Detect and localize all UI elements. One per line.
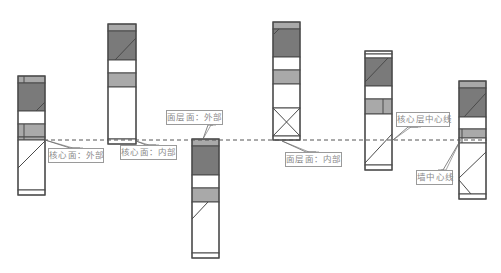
wall-layer-band-dark — [273, 29, 300, 57]
wall-layer-band-white — [192, 202, 219, 253]
wall-layer-band-white — [18, 140, 45, 190]
label-core-centerline: 核心层中心线 — [396, 112, 450, 127]
wall-layer-band-dark — [192, 146, 219, 175]
wall-layer-band-light — [108, 73, 136, 87]
leader-tail-finish-face-interior — [282, 141, 319, 152]
wall-layer-band-white — [459, 194, 486, 199]
leader-wall-centerline — [438, 141, 460, 170]
leader-finish-face-interior — [282, 141, 316, 152]
leader-tail-finish-face-exterior — [203, 125, 216, 139]
wall-layer-band-white — [18, 111, 45, 124]
wall-layer-band-light — [273, 70, 300, 84]
wall-layer-band-white — [365, 54, 392, 58]
wall-layer-band-white — [108, 60, 136, 73]
wall-layer-band-dark — [459, 88, 486, 117]
wall-layer-band-light — [459, 129, 486, 138]
wall-layer-band-white — [365, 86, 392, 99]
wall-layer-band-white — [18, 190, 45, 195]
wall-layer-band-white — [108, 87, 136, 139]
wall-layer-band-light — [459, 81, 486, 88]
wall-layer-band-white — [192, 253, 219, 258]
wall-layer-band-dark — [18, 83, 45, 111]
label-finish-face-interior: 面层面：内部 — [285, 152, 342, 167]
label-core-face-interior: 核心面：内部 — [120, 145, 177, 160]
wall-layer-band-white — [192, 175, 219, 188]
leader-tail-core-centerline — [393, 127, 421, 140]
wall-1 — [18, 76, 45, 195]
wall-layer-band-light — [365, 99, 392, 114]
wall-4 — [273, 22, 300, 140]
wall-layer-band-dark — [108, 31, 136, 60]
wall-layer-band-white — [273, 57, 300, 70]
leader-core-centerline — [393, 127, 418, 140]
wall-location-line-diagram — [0, 0, 501, 273]
wall-layer-band-light — [18, 124, 45, 137]
wall-3 — [192, 139, 219, 258]
wall-layer-band-white — [459, 117, 486, 129]
leader-lines-layer — [45, 125, 460, 170]
wall-layer-band-light — [18, 76, 45, 83]
leader-tail-core-face-exterior — [45, 140, 83, 148]
wall-layer-band-white — [273, 84, 300, 108]
wall-layer-band-dark — [365, 58, 392, 86]
wall-5 — [365, 51, 392, 170]
wall-layer-band-light — [108, 24, 136, 31]
wall-layer-band-light — [192, 188, 219, 202]
wall-layer-band-white — [459, 143, 486, 194]
wall-layer-band-white — [273, 136, 300, 140]
wall-layer-band-light — [273, 22, 300, 29]
wall-layer-band-white — [365, 165, 392, 170]
wall-2 — [108, 24, 136, 144]
label-core-face-exterior: 核心面：外部 — [48, 148, 104, 163]
label-wall-centerline: 墙中心线 — [416, 170, 453, 185]
label-finish-face-exterior: 面层面：外部 — [166, 110, 223, 125]
